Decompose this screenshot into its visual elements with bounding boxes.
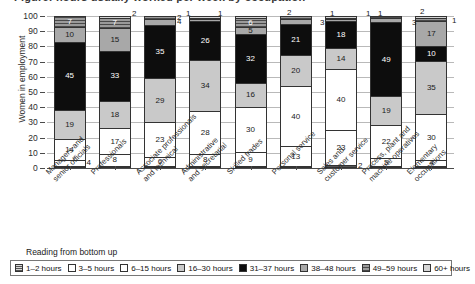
legend-item[interactable]: 31–37 hours <box>239 264 294 273</box>
y-axis-tick-mark <box>40 107 45 108</box>
x-axis-tick-mark <box>115 166 116 170</box>
legend-swatch-icon <box>300 264 308 272</box>
bar-segment[interactable] <box>370 18 402 23</box>
segment-value-label: 10 <box>65 31 74 39</box>
bar-segment[interactable]: 33 <box>99 51 131 101</box>
segment-value-label: 14 <box>336 55 345 63</box>
legend-swatch-icon <box>239 264 247 272</box>
segment-callout-label: 1 <box>218 9 222 18</box>
bar-segment[interactable]: 16 <box>235 83 267 107</box>
segment-callout-label: 3 <box>320 18 324 27</box>
bar-segment[interactable]: 15 <box>99 28 131 51</box>
bar-segment[interactable] <box>325 19 357 21</box>
page-title-text: Figure: hours usually worked per week by… <box>14 0 305 3</box>
legend-item[interactable]: 60+ hours <box>423 264 470 273</box>
y-axis-tick-mark <box>40 138 45 139</box>
segment-callout-label: 3 <box>412 18 416 27</box>
segment-value-label: 16 <box>246 91 255 99</box>
bar-segment[interactable]: 7 <box>99 18 131 29</box>
bar-segment[interactable]: 18 <box>325 21 357 48</box>
segment-value-label: 32 <box>246 55 255 63</box>
bar-segment[interactable]: 35 <box>415 61 447 114</box>
bar-segment[interactable] <box>144 16 176 19</box>
y-axis-tick-label: 10 <box>8 148 38 158</box>
bar-segment[interactable] <box>415 16 447 18</box>
legend-label: 16–30 hours <box>188 264 232 273</box>
bar-segment[interactable]: 26 <box>189 21 221 60</box>
segment-value-label: 40 <box>336 96 345 104</box>
bar-segment[interactable] <box>415 18 447 21</box>
y-axis-tick-label: 60 <box>8 72 38 82</box>
bar-segment[interactable]: 32 <box>235 34 267 82</box>
segment-value-label: 28 <box>201 129 210 137</box>
segment-callout-label: 1 <box>378 9 382 18</box>
y-axis-tick-label: 90 <box>8 26 38 36</box>
segment-value-label: 20 <box>291 67 300 75</box>
legend-label: 6–15 hours <box>131 264 171 273</box>
bar-segment[interactable] <box>99 16 131 18</box>
bar-segment[interactable]: 35 <box>144 25 176 78</box>
segment-value-label: 21 <box>291 36 300 44</box>
bar-segment[interactable] <box>189 16 221 18</box>
y-axis-tick-mark <box>40 77 45 78</box>
segment-callout-label: 2 <box>132 9 136 18</box>
bar-segment[interactable]: 34 <box>189 60 221 112</box>
legend-label: 31–37 hours <box>250 264 294 273</box>
x-axis-tick-mark <box>251 166 252 170</box>
segment-callout-label: 1 <box>452 16 456 25</box>
bar-segment[interactable] <box>189 19 221 21</box>
y-axis-tick-label: 0 <box>8 163 38 173</box>
bar-segment[interactable]: 7 <box>54 16 86 27</box>
legend-item[interactable]: 6–15 hours <box>120 264 171 273</box>
y-axis-tick-label: 80 <box>8 41 38 51</box>
x-axis-tick-mark <box>296 166 297 170</box>
segment-value-label: 45 <box>65 72 74 80</box>
legend-item[interactable]: 16–30 hours <box>177 264 232 273</box>
legend-label: 38–48 hours <box>311 264 355 273</box>
y-axis: Women in employment 10090807060504030201… <box>0 16 47 168</box>
segment-value-label: 17 <box>427 30 436 38</box>
y-axis-tick-mark <box>40 62 45 63</box>
bar-segment[interactable]: 14 <box>325 48 357 69</box>
y-axis-tick-mark <box>40 31 45 32</box>
y-axis-tick-mark <box>40 46 45 47</box>
bar-segment[interactable] <box>280 16 312 19</box>
legend-swatch-icon <box>68 264 76 272</box>
bar-segment[interactable] <box>280 19 312 24</box>
legend: 1–2 hours3–5 hours6–15 hours16–30 hours3… <box>10 260 452 276</box>
bar-segment[interactable] <box>189 18 221 20</box>
bar-segment[interactable]: 10 <box>54 27 86 42</box>
legend-caption: Reading from bottom up <box>26 247 117 257</box>
bar-segment[interactable]: 21 <box>280 24 312 56</box>
bar-segment[interactable]: 5 <box>235 27 267 35</box>
y-axis-tick-mark <box>40 122 45 123</box>
legend-item[interactable]: 49–59 hours <box>362 264 417 273</box>
bar-segment[interactable]: 45 <box>54 42 86 110</box>
segment-callout-label: 4 <box>87 158 91 167</box>
legend-swatch-icon <box>362 264 370 272</box>
legend-item[interactable]: 1–2 hours <box>15 264 62 273</box>
bar-segment[interactable]: 20 <box>280 55 312 85</box>
segment-value-label: 6 <box>248 19 252 27</box>
bar-segment[interactable]: 49 <box>370 22 402 96</box>
y-axis-tick-label: 30 <box>8 117 38 127</box>
y-axis-tick-mark <box>40 92 45 93</box>
bar-segment[interactable] <box>235 16 267 18</box>
bar-segment[interactable]: 6 <box>235 18 267 27</box>
segment-value-label: 5 <box>248 27 252 35</box>
y-axis-tick-label: 50 <box>8 87 38 97</box>
segment-value-label: 34 <box>201 82 210 90</box>
bar-segment[interactable] <box>370 16 402 18</box>
y-axis-tick-mark <box>40 153 45 154</box>
legend-swatch-icon <box>177 264 185 272</box>
bar-segment[interactable]: 17 <box>415 21 447 47</box>
legend-label: 1–2 hours <box>26 264 62 273</box>
segment-callout-label: 1 <box>330 9 334 18</box>
legend-item[interactable]: 3–5 hours <box>68 264 115 273</box>
bar-segment[interactable]: 10 <box>415 46 447 61</box>
segment-callout-label: 1 <box>366 9 370 18</box>
bar-segment[interactable] <box>144 19 176 25</box>
segment-value-label: 7 <box>67 18 71 26</box>
legend-item[interactable]: 38–48 hours <box>300 264 355 273</box>
legend-swatch-icon <box>423 264 431 272</box>
